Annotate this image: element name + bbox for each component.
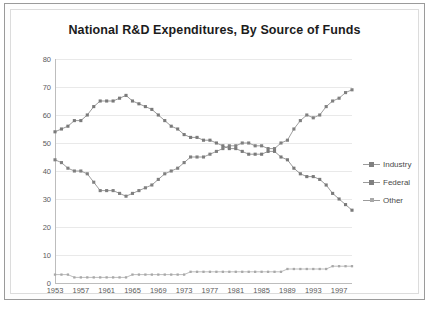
data-point <box>241 271 243 273</box>
data-point <box>177 273 179 275</box>
legend-item-other: Other <box>363 192 425 208</box>
data-point <box>202 139 205 142</box>
data-point <box>273 271 275 273</box>
data-point <box>92 105 95 108</box>
data-point <box>254 271 256 273</box>
data-point <box>92 181 95 184</box>
data-point <box>183 133 186 136</box>
data-point <box>79 169 82 172</box>
data-point <box>286 268 288 270</box>
data-point <box>118 192 121 195</box>
data-point <box>112 276 114 278</box>
y-tick-label: 30 <box>29 195 51 204</box>
data-point <box>163 119 166 122</box>
data-point <box>312 175 315 178</box>
data-point <box>260 144 263 147</box>
y-tick-label: 80 <box>29 55 51 64</box>
square-marker-icon <box>363 160 380 169</box>
data-point <box>254 144 257 147</box>
data-point <box>157 273 159 275</box>
data-point <box>286 139 289 142</box>
data-point <box>196 271 198 273</box>
data-point <box>131 192 134 195</box>
y-tick-label: 20 <box>29 223 51 232</box>
data-point <box>350 88 353 91</box>
data-point <box>222 271 224 273</box>
x-axis: 1953195719611965196919731977198119851989… <box>55 286 352 302</box>
data-point <box>106 276 108 278</box>
data-point <box>54 273 56 275</box>
data-point <box>60 127 63 130</box>
data-point <box>273 147 276 150</box>
data-point <box>215 141 218 144</box>
data-point <box>299 119 302 122</box>
series-other <box>54 265 353 279</box>
data-point <box>99 189 102 192</box>
data-point <box>86 113 89 116</box>
y-axis: 01020304050607080 <box>25 59 51 283</box>
data-point <box>137 189 140 192</box>
data-point <box>254 153 257 156</box>
data-point <box>305 113 308 116</box>
data-point <box>318 178 321 181</box>
data-point <box>293 268 295 270</box>
data-point <box>189 155 192 158</box>
series-canvas <box>55 59 352 283</box>
data-point <box>138 273 140 275</box>
data-point <box>118 276 120 278</box>
data-point <box>183 161 186 164</box>
data-point <box>176 127 179 130</box>
data-point <box>86 276 88 278</box>
data-point <box>118 97 121 100</box>
data-point <box>325 105 328 108</box>
data-point <box>53 130 56 133</box>
data-point <box>60 161 63 164</box>
data-point <box>234 144 237 147</box>
data-point <box>195 155 198 158</box>
data-point <box>331 192 334 195</box>
data-point <box>228 271 230 273</box>
square-marker-icon <box>363 178 380 187</box>
data-point <box>176 167 179 170</box>
data-point <box>273 150 276 153</box>
data-point <box>325 268 327 270</box>
x-tick-label: 1981 <box>227 286 244 295</box>
x-tick-label: 1957 <box>72 286 89 295</box>
data-point <box>344 203 347 206</box>
data-point <box>299 268 301 270</box>
data-point <box>202 155 205 158</box>
data-point <box>234 147 237 150</box>
x-tick-label: 1973 <box>176 286 193 295</box>
data-point <box>215 271 217 273</box>
data-point <box>338 265 340 267</box>
data-point <box>267 150 270 153</box>
data-point <box>338 97 341 100</box>
data-point <box>260 153 263 156</box>
legend-item-federal: Federal <box>363 174 425 190</box>
data-point <box>151 273 153 275</box>
legend-item-industry: Industry <box>363 156 425 172</box>
data-point <box>331 99 334 102</box>
data-point <box>247 141 250 144</box>
data-point <box>112 189 115 192</box>
data-point <box>170 169 173 172</box>
data-point <box>157 113 160 116</box>
data-point <box>105 99 108 102</box>
data-point <box>150 183 153 186</box>
data-point <box>73 169 76 172</box>
data-point <box>286 158 289 161</box>
data-point <box>312 116 315 119</box>
data-point <box>99 99 102 102</box>
data-point <box>241 150 244 153</box>
data-point <box>209 271 211 273</box>
x-tick-label: 1989 <box>279 286 296 295</box>
data-point <box>221 147 224 150</box>
chart-figure-frame: National R&D Expenditures, By Source of … <box>4 3 425 300</box>
data-point <box>208 153 211 156</box>
data-point <box>338 197 341 200</box>
data-point <box>260 271 262 273</box>
data-point <box>137 102 140 105</box>
x-tick-label: 1969 <box>150 286 167 295</box>
data-point <box>105 189 108 192</box>
data-point <box>228 147 231 150</box>
